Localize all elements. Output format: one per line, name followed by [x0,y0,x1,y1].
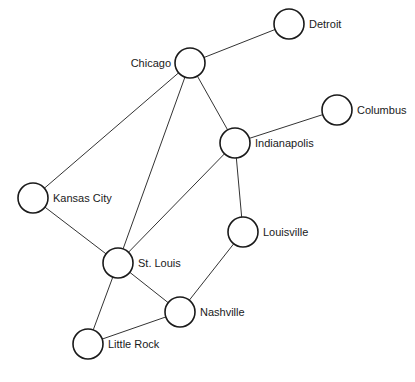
nodes-layer: ChicagoDetroitColumbusIndianapolisKansas… [18,9,407,359]
node-circle [18,183,48,213]
node-circle [103,248,133,278]
node-label: Little Rock [108,338,160,350]
node-circle [322,95,352,125]
node-little-rock: Little Rock [73,329,160,359]
node-label: Columbus [357,104,407,116]
node-label: Chicago [131,57,171,69]
node-circle [165,297,195,327]
node-circle [220,128,250,158]
edge-kansas-city-st-louis [33,198,118,263]
node-label: Louisville [263,226,308,238]
node-label: Kansas City [53,192,112,204]
node-detroit: Detroit [274,9,341,39]
node-label: Nashville [200,306,245,318]
node-circle [274,9,304,39]
edge-chicago-detroit [190,24,289,63]
node-label: Detroit [309,18,341,30]
node-circle [175,48,205,78]
node-chicago: Chicago [131,48,205,78]
node-louisville: Louisville [228,217,308,247]
node-st-louis: St. Louis [103,248,181,278]
city-graph-diagram: ChicagoDetroitColumbusIndianapolisKansas… [0,0,415,382]
node-circle [228,217,258,247]
edge-indianapolis-st-louis [118,143,235,263]
edge-chicago-kansas-city [33,63,190,198]
node-label: Indianapolis [255,137,314,149]
node-columbus: Columbus [322,95,407,125]
edge-chicago-st-louis [118,63,190,263]
node-label: St. Louis [138,257,181,269]
node-kansas-city: Kansas City [18,183,112,213]
node-nashville: Nashville [165,297,245,327]
node-circle [73,329,103,359]
